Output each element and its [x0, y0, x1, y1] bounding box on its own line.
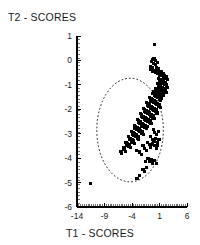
y-tick-label: -2 [48, 104, 72, 114]
y-tick-label: -3 [48, 129, 72, 139]
x-tick-label: -14 [71, 211, 83, 221]
y-tick-label: -1 [48, 80, 72, 90]
y-tick-label: -5 [48, 178, 72, 188]
plot-svg [0, 0, 200, 245]
y-tick-label: -6 [48, 202, 72, 212]
plot-canvas [0, 0, 200, 245]
y-tick-label: 0 [48, 55, 72, 65]
x-tick-label: 1 [157, 211, 162, 221]
x-tick-label: -9 [101, 211, 109, 221]
scatter-plot-figure: T2 - SCORES 10-1-2-3-4-5-6 -14-9-416 T1 … [0, 0, 200, 245]
y-tick-label: 1 [48, 31, 72, 41]
data-points-layer [89, 43, 169, 185]
y-tick-label: -4 [48, 153, 72, 163]
x-tick-label: -4 [128, 211, 136, 221]
x-axis-label: T1 - SCORES [0, 227, 200, 239]
x-tick-label: 6 [185, 211, 190, 221]
